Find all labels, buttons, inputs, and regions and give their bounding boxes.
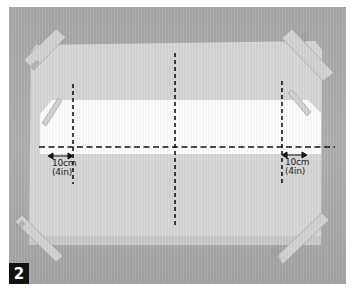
right-measure-imperial: (4in)	[285, 167, 309, 176]
white-strip	[40, 100, 321, 154]
left-measure-label: 10cm (4in)	[52, 159, 76, 177]
photo-panel	[9, 7, 346, 284]
diagram-illustration	[9, 7, 346, 284]
left-measure-imperial: (4in)	[52, 168, 76, 177]
paper-shadow	[29, 236, 321, 245]
right-measure-label: 10cm (4in)	[285, 158, 309, 176]
step-number-badge: 2	[9, 263, 29, 284]
